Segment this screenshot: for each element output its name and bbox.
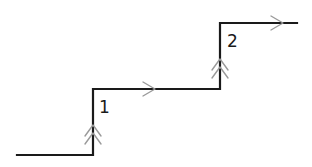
step-label-2: 2 (227, 31, 238, 51)
staircase-path (17, 23, 297, 155)
step-label-1: 1 (99, 97, 110, 117)
step-diagram: 1 2 (0, 0, 312, 167)
